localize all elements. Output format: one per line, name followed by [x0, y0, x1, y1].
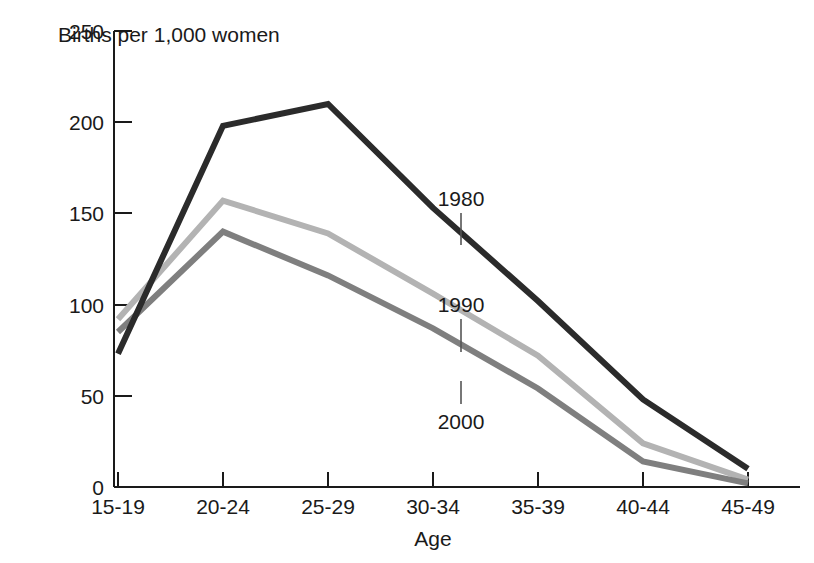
- x-tick-label-25-29: 25-29: [301, 495, 355, 518]
- y-tick-label-250: 250: [69, 20, 104, 43]
- x-tick-label-15-19: 15-19: [91, 495, 145, 518]
- x-tick-label-40-44: 40-44: [616, 495, 670, 518]
- series-label-1980: 1980: [438, 187, 485, 210]
- x-tick-label-35-39: 35-39: [511, 495, 565, 518]
- series-annotation-2000: 2000: [438, 381, 485, 433]
- x-tick-label-45-49: 45-49: [721, 495, 775, 518]
- y-tick-label-200: 200: [69, 111, 104, 134]
- y-axis-labels: 250 200 150 100 50 0: [69, 20, 104, 499]
- x-axis-ticks: [118, 472, 748, 487]
- series-line-1980: [118, 104, 748, 469]
- chart-page: Births per 1,000 women 250 200 150 100 5…: [0, 0, 814, 563]
- line-chart: Births per 1,000 women 250 200 150 100 5…: [0, 0, 814, 563]
- series-label-2000: 2000: [438, 410, 485, 433]
- x-axis-labels: 15-19 20-24 25-29 30-34 35-39 40-44 45-4…: [91, 495, 775, 518]
- y-tick-label-100: 100: [69, 294, 104, 317]
- y-axis-ticks: [114, 31, 132, 487]
- x-tick-label-30-34: 30-34: [406, 495, 460, 518]
- y-tick-label-50: 50: [81, 385, 104, 408]
- series-label-1990: 1990: [438, 293, 485, 316]
- x-axis-title: Age: [414, 527, 451, 550]
- y-tick-label-150: 150: [69, 202, 104, 225]
- x-tick-label-20-24: 20-24: [196, 495, 250, 518]
